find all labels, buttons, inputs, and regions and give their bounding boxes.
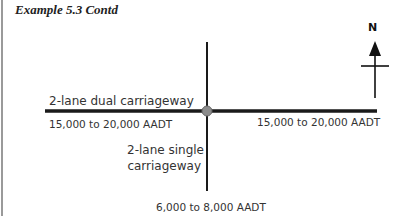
- junction-diagram: [0, 0, 409, 216]
- junction-node: [202, 106, 212, 116]
- main-road-west-flow: 15,000 to 20,000 AADT: [49, 118, 172, 130]
- main-road-east-flow: 15,000 to 20,000 AADT: [257, 116, 380, 128]
- minor-road-south-flow: 6,000 to 8,000 AADT: [156, 201, 266, 213]
- north-label: N: [368, 21, 377, 34]
- minor-road-type-label-2: carriageway: [117, 159, 201, 173]
- minor-road-type-label-1: 2-lane single: [127, 143, 201, 157]
- north-arrow-icon: [361, 41, 389, 98]
- main-road-type-label: 2-lane dual carriageway: [49, 94, 194, 108]
